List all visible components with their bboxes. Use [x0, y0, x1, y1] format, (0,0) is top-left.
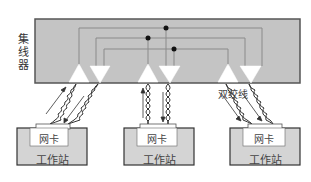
hub-label: 集线器 — [17, 33, 29, 72]
nic-label: 网卡 — [139, 131, 175, 146]
workstation-label: 工作站 — [17, 151, 87, 167]
junction-dot — [164, 26, 169, 31]
nic-label: 网卡 — [246, 131, 282, 146]
arrow-down-icon — [236, 116, 241, 121]
arrow-down-icon — [161, 117, 165, 122]
arrow-up-icon — [61, 87, 66, 92]
junction-dot — [146, 36, 151, 41]
junction-dot — [172, 47, 177, 52]
twisted-pair-label: 双绞线 — [218, 90, 248, 100]
arrow-up-icon — [141, 88, 145, 93]
workstation-label: 工作站 — [230, 151, 300, 167]
nic-label: 网卡 — [31, 131, 67, 146]
workstation-label: 工作站 — [124, 151, 194, 167]
arrow-down-icon — [257, 116, 262, 121]
